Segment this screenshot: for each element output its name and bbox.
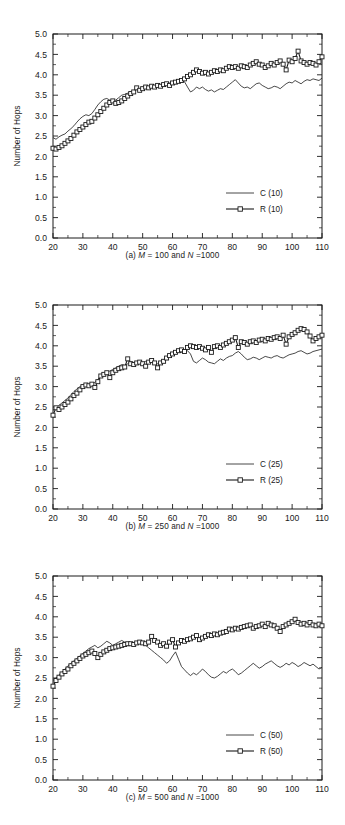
data-point-marker — [308, 334, 312, 338]
data-point-marker — [51, 413, 55, 417]
data-point-marker — [236, 345, 240, 349]
legend-item: R (50) — [226, 747, 283, 756]
y-tick-label: 3.5 — [35, 632, 47, 642]
legend-item: C (10) — [226, 189, 283, 198]
data-point-marker — [183, 350, 187, 354]
legend-label: R (25) — [260, 476, 283, 485]
x-tick-label: 30 — [78, 513, 88, 523]
data-point-marker — [281, 62, 285, 66]
y-tick-label: 2.5 — [35, 402, 47, 412]
y-tick-label: 3.5 — [35, 361, 47, 371]
y-tick-label: 2.0 — [35, 694, 47, 704]
x-tick-label: 40 — [108, 242, 118, 252]
data-point-marker — [284, 68, 288, 72]
panel-a: 0.00.51.01.52.02.53.03.54.04.55.02030405… — [0, 6, 345, 277]
legend-label: R (10) — [260, 205, 283, 214]
legend-item: R (10) — [226, 205, 283, 214]
legend-square-marker — [238, 207, 242, 211]
y-tick-label: 2.0 — [35, 152, 47, 162]
series-line — [53, 640, 322, 680]
y-tick-label: 4.0 — [35, 612, 47, 622]
y-tick-label: 1.5 — [35, 172, 47, 182]
data-point-marker — [305, 330, 309, 334]
x-tick-label: 40 — [108, 784, 118, 794]
series-r — [51, 49, 324, 151]
y-tick-label: 2.5 — [35, 131, 47, 141]
data-point-marker — [93, 385, 97, 389]
legend-label: R (50) — [260, 747, 283, 756]
x-tick-label: 50 — [138, 513, 148, 523]
y-tick-label: 1.5 — [35, 714, 47, 724]
x-tick-label: 80 — [228, 784, 238, 794]
panel-b-plot: 0.00.51.01.52.02.53.03.54.04.55.02030405… — [0, 277, 345, 523]
data-point-marker — [156, 366, 160, 370]
x-tick-label: 70 — [198, 513, 208, 523]
y-tick-label: 4.0 — [35, 341, 47, 351]
y-tick-label: 5.0 — [35, 571, 47, 581]
y-tick-label: 1.0 — [35, 463, 47, 473]
series-c — [53, 78, 322, 139]
legend-square-marker — [238, 749, 242, 753]
x-tick-label: 90 — [257, 784, 267, 794]
data-point-marker — [194, 634, 198, 638]
y-tick-label: 0.0 — [35, 233, 47, 243]
data-point-marker — [209, 350, 213, 354]
y-axis-title: Number of Hops — [12, 377, 22, 438]
x-tick-label: 110 — [315, 784, 329, 794]
x-tick-label: 30 — [78, 784, 88, 794]
y-axis-title: Number of Hops — [12, 106, 22, 167]
data-point-marker — [278, 629, 282, 633]
y-tick-label: 5.0 — [35, 29, 47, 39]
y-axis-title: Number of Hops — [12, 648, 22, 709]
data-point-marker — [105, 371, 109, 375]
legend: C (50)R (50) — [226, 731, 283, 756]
data-point-marker — [284, 342, 288, 346]
caption-prefix: (a) — [126, 251, 139, 260]
x-tick-label: 80 — [228, 513, 238, 523]
data-point-marker — [171, 638, 175, 642]
y-tick-label: 3.5 — [35, 90, 47, 100]
data-point-marker — [150, 634, 154, 638]
x-tick-label: 100 — [285, 784, 300, 794]
y-tick-label: 3.0 — [35, 653, 47, 663]
legend-square-marker — [238, 478, 242, 482]
y-tick-label: 2.5 — [35, 673, 47, 683]
y-tick-label: 0.0 — [35, 504, 47, 514]
y-tick-label: 0.5 — [35, 484, 47, 494]
data-point-marker — [293, 56, 297, 60]
y-tick-label: 1.0 — [35, 734, 47, 744]
x-tick-label: 80 — [228, 242, 238, 252]
data-point-marker — [147, 640, 151, 644]
x-tick-label: 50 — [138, 242, 148, 252]
x-tick-label: 90 — [257, 242, 267, 252]
x-tick-label: 30 — [78, 242, 88, 252]
data-point-marker — [108, 376, 112, 380]
data-point-marker — [144, 364, 148, 368]
legend-item: R (25) — [226, 476, 283, 485]
y-tick-label: 4.5 — [35, 321, 47, 331]
caption-n-value: =1000 — [193, 793, 219, 802]
x-tick-label: 60 — [168, 242, 178, 252]
y-tick-label: 1.0 — [35, 192, 47, 202]
series-r — [51, 327, 324, 418]
caption-m-value: = 500 and — [145, 793, 187, 802]
x-tick-label: 90 — [257, 513, 267, 523]
x-tick-label: 60 — [168, 513, 178, 523]
panel-c-plot: 0.00.51.01.52.02.53.03.54.04.55.02030405… — [0, 548, 345, 794]
panel-a-plot: 0.00.51.01.52.02.53.03.54.04.55.02030405… — [0, 6, 345, 252]
legend: C (25)R (25) — [226, 460, 283, 485]
y-tick-label: 3.0 — [35, 111, 47, 121]
caption-n-value: =1000 — [194, 251, 220, 260]
data-point-marker — [165, 644, 169, 648]
x-tick-label: 110 — [315, 242, 329, 252]
panel-caption: (c) M = 500 and N =1000 — [0, 794, 345, 802]
figure-container: 0.00.51.01.52.02.53.03.54.04.55.02030405… — [0, 0, 345, 825]
caption-m-value: = 100 and — [145, 251, 187, 260]
x-tick-label: 100 — [285, 513, 300, 523]
series-c — [53, 640, 322, 680]
data-point-marker — [96, 380, 100, 384]
y-tick-label: 4.5 — [35, 50, 47, 60]
x-tick-label: 60 — [168, 784, 178, 794]
legend-label: C (10) — [260, 189, 283, 198]
data-point-marker — [281, 333, 285, 337]
